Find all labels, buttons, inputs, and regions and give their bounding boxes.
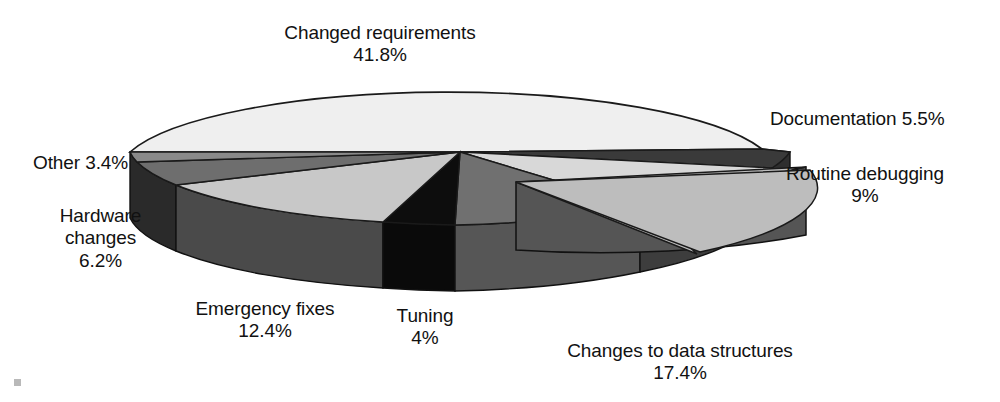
slice-top-changed-requirements — [130, 92, 762, 152]
label-changes-to-data-structures: Changes to data structures 17.4% — [530, 340, 830, 385]
pie-chart-figure: Changed requirements 41.8% Documentation… — [0, 0, 1000, 402]
label-tuning: Tuning 4% — [365, 305, 485, 350]
label-tuning-name: Tuning — [365, 305, 485, 327]
label-changed-requirements-name: Changed requirements — [230, 22, 530, 44]
label-tuning-value: 4% — [365, 327, 485, 349]
label-hardware-changes-name1: Hardware — [28, 205, 173, 227]
label-emergency-fixes: Emergency fixes 12.4% — [155, 298, 375, 343]
label-routine-debugging-value: 9% — [750, 185, 980, 207]
label-documentation-text: Documentation 5.5% — [770, 108, 945, 130]
label-hardware-changes-name2: changes — [28, 227, 173, 249]
slice-wall-tuning — [383, 222, 455, 291]
label-other-text: Other 3.4% — [33, 152, 128, 174]
label-emergency-fixes-name: Emergency fixes — [155, 298, 375, 320]
label-emergency-fixes-value: 12.4% — [155, 320, 375, 342]
label-hardware-changes: Hardware changes 6.2% — [28, 205, 173, 272]
label-documentation: Documentation 5.5% — [770, 108, 945, 130]
scan-speck-artifact — [14, 379, 21, 386]
label-routine-debugging: Routine debugging 9% — [750, 163, 980, 208]
label-routine-debugging-name: Routine debugging — [750, 163, 980, 185]
label-changes-to-data-structures-value: 17.4% — [530, 362, 830, 384]
label-changed-requirements: Changed requirements 41.8% — [230, 22, 530, 67]
label-changed-requirements-value: 41.8% — [230, 44, 530, 66]
label-other: Other 3.4% — [33, 152, 128, 174]
label-changes-to-data-structures-name: Changes to data structures — [530, 340, 830, 362]
label-hardware-changes-value: 6.2% — [28, 250, 173, 272]
